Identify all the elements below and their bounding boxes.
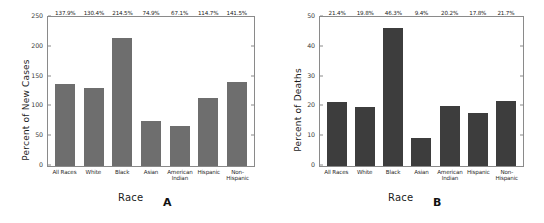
xtick-line1: White bbox=[86, 169, 102, 175]
bar-value-label: 21.4% bbox=[329, 10, 346, 16]
xtick-line2: Indian bbox=[172, 175, 188, 181]
panel-a-ytick-label-2: 100 bbox=[31, 101, 43, 108]
xtick-line1: Non-Hispanic bbox=[495, 169, 518, 181]
panel-a: Percent of New Cases 0 50 100 150 200 25… bbox=[0, 0, 272, 223]
panel-a-y-axis-label: Percent of New Cases bbox=[21, 40, 31, 180]
bar-value-label: 21.7% bbox=[497, 10, 514, 16]
xtick-line2: Indian bbox=[442, 175, 458, 181]
bar-value-label: 46.3% bbox=[385, 10, 402, 16]
xtick-hispanic: Hispanic bbox=[464, 169, 492, 182]
panel-b-bars: 21.4% 19.8% 46.3% 9.4% 20.2% bbox=[320, 17, 523, 166]
bar-column-all-races: 21.4% bbox=[323, 17, 351, 166]
bar-hispanic[interactable] bbox=[198, 98, 218, 166]
bar-value-label: 141.5% bbox=[227, 10, 247, 16]
bar-column-black: 46.3% bbox=[379, 17, 407, 166]
bar-all-races[interactable] bbox=[55, 84, 75, 166]
bar-column-white: 130.4% bbox=[80, 17, 109, 166]
xtick-hispanic: Hispanic bbox=[194, 169, 223, 182]
panel-a-ytick-label-5: 250 bbox=[31, 12, 43, 19]
bar-column-white: 19.8% bbox=[351, 17, 379, 166]
panel-a-x-axis-label: Race bbox=[118, 192, 143, 203]
xtick-american-indian: AmericanIndian bbox=[436, 169, 464, 182]
xtick-line1: White bbox=[357, 169, 373, 175]
panel-b-ytick-label-5: 50 bbox=[307, 12, 315, 19]
panel-b-y-axis-label: Percent of Deaths bbox=[293, 40, 303, 180]
xtick-line1: Hispanic bbox=[467, 169, 490, 175]
bar-column-non-hispanic: 21.7% bbox=[492, 17, 520, 166]
xtick-american-indian: AmericanIndian bbox=[165, 169, 194, 182]
panel-b-letter: B bbox=[433, 196, 441, 209]
panel-b-ytick-label-0: 0 bbox=[311, 161, 315, 168]
bar-column-all-races: 137.9% bbox=[51, 17, 80, 166]
bar-value-label: 214.5% bbox=[112, 10, 132, 16]
xtick-line1: Asian bbox=[414, 169, 429, 175]
bar-non-hispanic[interactable] bbox=[227, 82, 247, 166]
panel-b-ytick-label-3: 30 bbox=[307, 72, 315, 79]
bar-column-hispanic: 114.7% bbox=[194, 17, 223, 166]
xtick-white: White bbox=[350, 169, 378, 182]
xtick-white: White bbox=[79, 169, 108, 182]
bar-american-indian[interactable] bbox=[170, 126, 190, 166]
xtick-line1: Black bbox=[386, 169, 400, 175]
panel-b-plot-area: 0 10 20 30 40 50 21.4% 19.8% 46.3% bbox=[319, 16, 524, 167]
xtick-line1: Black bbox=[115, 169, 129, 175]
bar-american-indian[interactable] bbox=[440, 106, 460, 166]
bar-value-label: 67.1% bbox=[171, 10, 188, 16]
bar-non-hispanic[interactable] bbox=[496, 101, 516, 166]
panel-b-ytick-label-4: 40 bbox=[307, 42, 315, 49]
bar-asian[interactable] bbox=[411, 138, 431, 166]
bar-value-label: 114.7% bbox=[198, 10, 218, 16]
panel-a-ytick-label-3: 150 bbox=[31, 72, 43, 79]
panel-b-ytick-label-1: 10 bbox=[307, 131, 315, 138]
figure-two-panel-bar-charts: Percent of New Cases 0 50 100 150 200 25… bbox=[0, 0, 544, 223]
panel-b-x-tick-labels: All Races White Black Asian AmericanIndi… bbox=[319, 169, 524, 182]
bar-value-label: 17.8% bbox=[469, 10, 486, 16]
bar-asian[interactable] bbox=[141, 121, 161, 166]
xtick-line1: Hispanic bbox=[197, 169, 220, 175]
bar-value-label: 74.9% bbox=[143, 10, 160, 16]
bar-column-hispanic: 17.8% bbox=[464, 17, 492, 166]
panel-a-ytick-label-1: 50 bbox=[35, 131, 43, 138]
xtick-asian: Asian bbox=[137, 169, 166, 182]
bar-value-label: 130.4% bbox=[84, 10, 104, 16]
bar-black[interactable] bbox=[383, 28, 403, 166]
bar-value-label: 9.4% bbox=[415, 10, 429, 16]
bar-hispanic[interactable] bbox=[468, 113, 488, 166]
bar-column-american-indian: 67.1% bbox=[165, 17, 194, 166]
xtick-line1: Asian bbox=[144, 169, 159, 175]
bar-column-black: 214.5% bbox=[108, 17, 137, 166]
xtick-all-races: All Races bbox=[322, 169, 350, 182]
xtick-asian: Asian bbox=[407, 169, 435, 182]
xtick-line1: All Races bbox=[324, 169, 348, 175]
bar-column-asian: 74.9% bbox=[137, 17, 166, 166]
bar-black[interactable] bbox=[112, 38, 132, 166]
bar-column-american-indian: 20.2% bbox=[436, 17, 464, 166]
xtick-line1: American bbox=[437, 169, 462, 175]
xtick-line1: All Races bbox=[52, 169, 76, 175]
xtick-line1: Non-Hispanic bbox=[226, 169, 249, 181]
bar-value-label: 137.9% bbox=[55, 10, 75, 16]
bar-white[interactable] bbox=[84, 88, 104, 166]
xtick-black: Black bbox=[108, 169, 137, 182]
xtick-black: Black bbox=[379, 169, 407, 182]
panel-a-letter: A bbox=[163, 196, 172, 209]
panel-a-x-tick-labels: All Races White Black Asian AmericanIndi… bbox=[47, 169, 255, 182]
bar-column-asian: 9.4% bbox=[407, 17, 435, 166]
xtick-line1: American bbox=[167, 169, 192, 175]
bar-all-races[interactable] bbox=[327, 102, 347, 166]
panel-b-x-axis-label: Race bbox=[388, 192, 413, 203]
panel-a-ytick-label-4: 200 bbox=[31, 42, 43, 49]
xtick-non-hispanic: Non-Hispanic bbox=[493, 169, 521, 182]
panel-a-plot-area: 0 50 100 150 200 250 137.9% 130.4% 21 bbox=[47, 16, 255, 167]
xtick-all-races: All Races bbox=[50, 169, 79, 182]
bar-value-label: 19.8% bbox=[357, 10, 374, 16]
bar-white[interactable] bbox=[355, 107, 375, 166]
panel-a-ytick-label-0: 0 bbox=[39, 161, 43, 168]
xtick-non-hispanic: Non-Hispanic bbox=[223, 169, 252, 182]
bar-value-label: 20.2% bbox=[441, 10, 458, 16]
panel-b-ytick-label-2: 20 bbox=[307, 101, 315, 108]
bar-column-non-hispanic: 141.5% bbox=[222, 17, 251, 166]
panel-b: Percent of Deaths 0 10 20 30 40 50 21.4%… bbox=[272, 0, 544, 223]
panel-a-bars: 137.9% 130.4% 214.5% 74.9% 67.1% bbox=[48, 17, 254, 166]
